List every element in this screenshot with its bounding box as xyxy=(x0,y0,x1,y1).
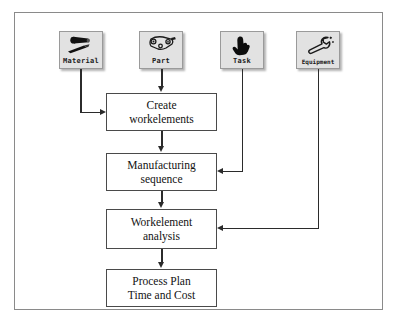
part-bracket-icon xyxy=(140,32,182,57)
connector-material-vertical xyxy=(80,69,82,113)
process-box-label: Workelement analysis xyxy=(131,215,193,243)
connector-create-to-manufacturing xyxy=(161,131,163,147)
material-bar-icon xyxy=(60,32,102,57)
source-label-equipment: Equipment xyxy=(302,57,335,68)
arrowhead-manufacturing-to-workelement xyxy=(158,202,164,208)
source-tile-task[interactable]: Task xyxy=(220,31,264,69)
connector-task-horizontal xyxy=(223,171,243,173)
connector-part-vertical xyxy=(161,69,163,87)
arrowhead-task-to-manufacturing xyxy=(217,168,223,174)
process-box-create-workelements[interactable]: Create workelements xyxy=(106,93,217,131)
connector-equipment-horizontal xyxy=(223,228,319,230)
process-box-label: Create workelements xyxy=(129,98,194,126)
arrowhead-material-to-create xyxy=(100,109,106,115)
connector-material-horizontal xyxy=(80,112,100,114)
connector-task-vertical xyxy=(242,69,244,172)
diagram-canvas: Material Pa xyxy=(0,0,405,328)
connector-workelement-to-processplan xyxy=(161,249,163,263)
source-label-task: Task xyxy=(233,57,251,68)
process-box-process-plan[interactable]: Process Plan Time and Cost xyxy=(106,269,217,307)
source-tile-part[interactable]: Part xyxy=(139,31,183,69)
source-label-material: Material xyxy=(63,57,99,68)
process-box-manufacturing-sequence[interactable]: Manufacturing sequence xyxy=(106,153,217,191)
source-tile-equipment[interactable]: Equipment xyxy=(296,31,340,69)
arrowhead-part-to-create xyxy=(158,86,164,92)
process-box-label: Process Plan Time and Cost xyxy=(128,274,195,302)
wrench-icon xyxy=(297,32,339,57)
diagram-frame: Material Pa xyxy=(14,12,383,310)
connector-equipment-vertical xyxy=(318,69,320,229)
arrowhead-workelement-to-processplan xyxy=(158,262,164,268)
arrowhead-equipment-to-workelement xyxy=(217,225,223,231)
process-box-workelement-analysis[interactable]: Workelement analysis xyxy=(106,209,217,249)
pointing-hand-icon xyxy=(221,32,263,57)
source-tile-material[interactable]: Material xyxy=(59,31,103,69)
process-box-label: Manufacturing sequence xyxy=(127,158,195,186)
source-label-part: Part xyxy=(152,57,170,68)
arrowhead-create-to-manufacturing xyxy=(158,146,164,152)
